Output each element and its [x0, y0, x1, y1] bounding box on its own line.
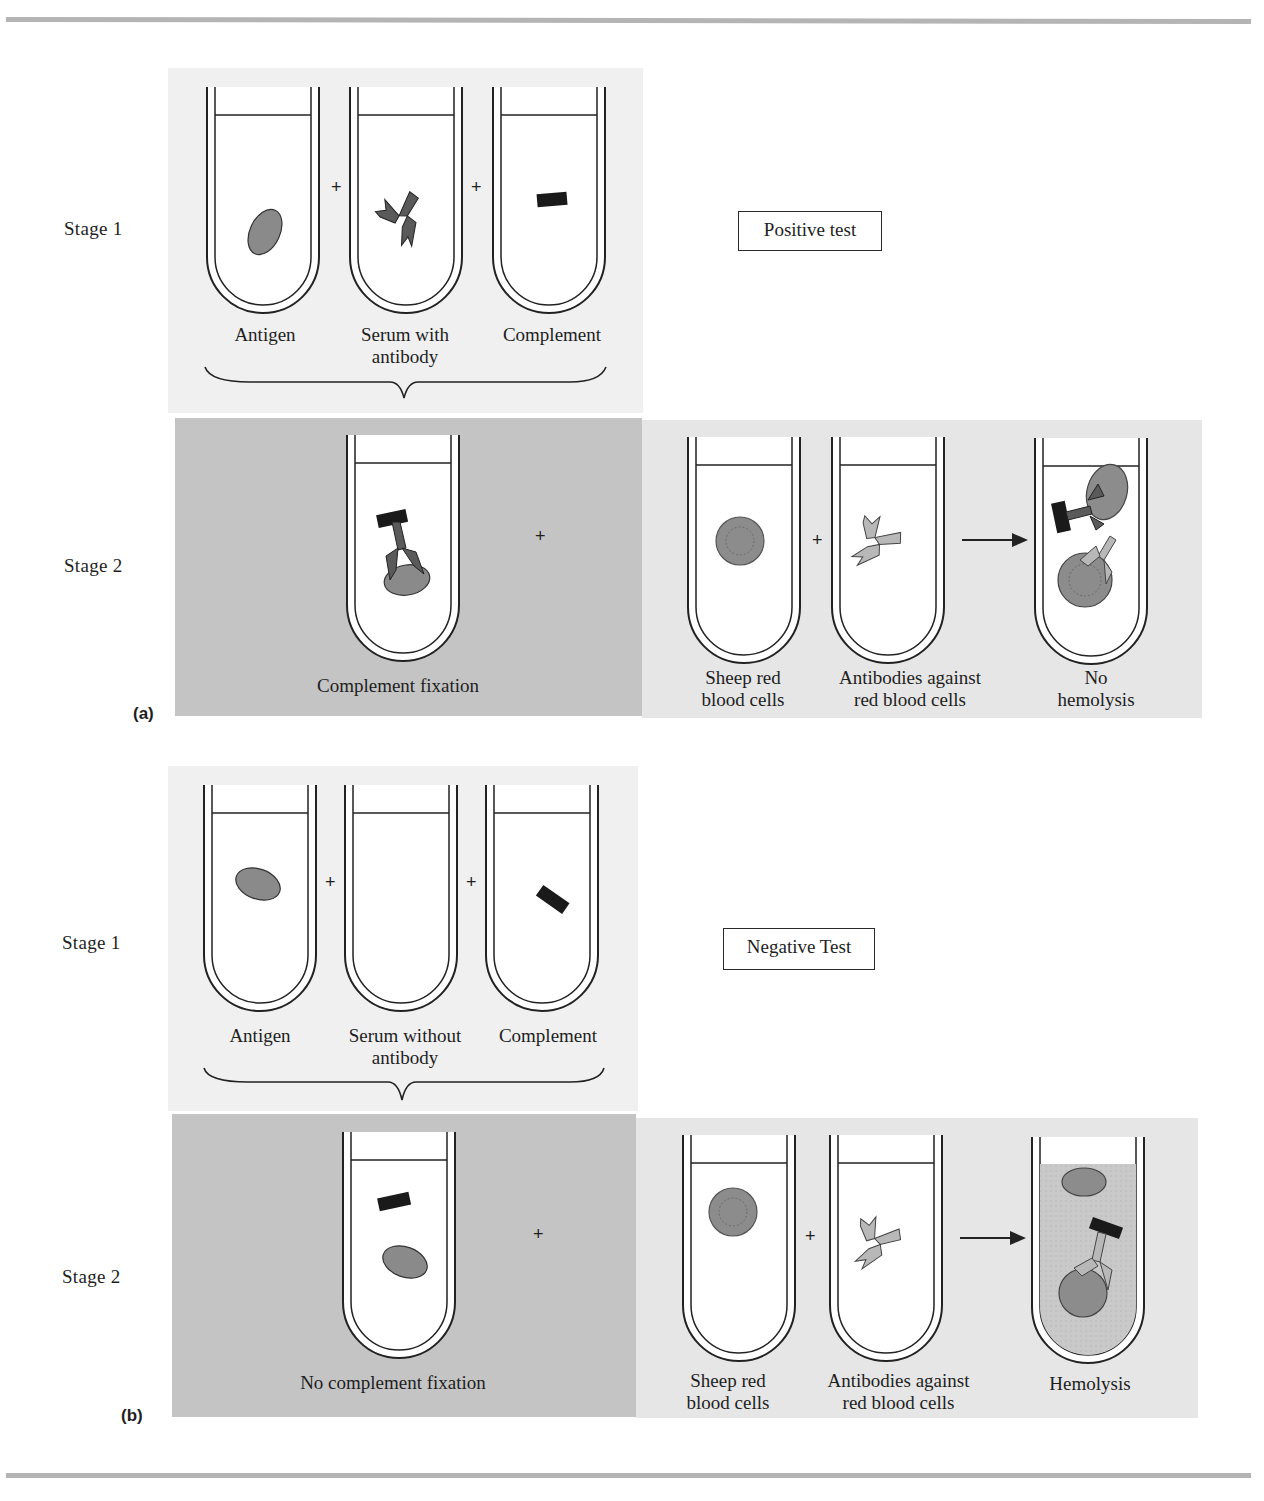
- plus-b1: +: [325, 872, 336, 893]
- tube-b-serum: [345, 785, 457, 1011]
- plus-b3: +: [533, 1224, 544, 1245]
- plus-a4: +: [812, 530, 823, 551]
- plus-a1: +: [331, 177, 342, 198]
- plus-a2: +: [471, 177, 482, 198]
- caption-serum-b: Serum without antibody: [330, 1025, 480, 1069]
- tube-b-anti-rbc: [830, 1135, 942, 1361]
- stage2-label-a: Stage 2: [64, 555, 123, 577]
- brace-b: [204, 1068, 604, 1100]
- plus-b2: +: [466, 872, 477, 893]
- caption-complement-b: Complement: [488, 1025, 608, 1047]
- caption-serum-a: Serum with antibody: [345, 324, 465, 368]
- caption-no-hemolysis-a: No hemolysis: [1040, 667, 1152, 711]
- caption-anti-rbc-b: Antibodies against red blood cells: [806, 1370, 991, 1414]
- caption-sheep-rbc-b: Sheep red blood cells: [672, 1370, 784, 1414]
- tube-b-sheep-rbc: [683, 1135, 795, 1361]
- stage1-label-a: Stage 1: [64, 218, 123, 240]
- caption-antigen-b: Antigen: [206, 1025, 314, 1047]
- negative-test-box: Negative Test: [723, 928, 875, 970]
- brace-a: [205, 367, 606, 398]
- caption-complement-a: Complement: [492, 324, 612, 346]
- tube-a-antigen: [207, 87, 319, 313]
- diagram-graphics: [0, 0, 1264, 1501]
- complement-shape: [537, 192, 568, 208]
- caption-hemolysis-b: Hemolysis: [1030, 1373, 1150, 1395]
- plus-b4: +: [805, 1226, 816, 1247]
- stage1-label-b: Stage 1: [62, 932, 121, 954]
- tube-b-no-fixation: [343, 1132, 455, 1358]
- caption-antigen-a: Antigen: [211, 324, 319, 346]
- stage2-label-b: Stage 2: [62, 1266, 121, 1288]
- tube-a-anti-rbc: [832, 437, 944, 663]
- caption-sheep-rbc-a: Sheep red blood cells: [687, 667, 799, 711]
- part-a-label: (a): [133, 704, 154, 724]
- caption-no-fixation-b: No complement fixation: [278, 1372, 508, 1394]
- caption-anti-rbc-a: Antibodies against red blood cells: [820, 667, 1000, 711]
- part-b-label: (b): [121, 1406, 143, 1426]
- positive-test-box: Positive test: [738, 211, 882, 251]
- caption-fixation-a: Complement fixation: [298, 675, 498, 697]
- plus-a3: +: [535, 526, 546, 547]
